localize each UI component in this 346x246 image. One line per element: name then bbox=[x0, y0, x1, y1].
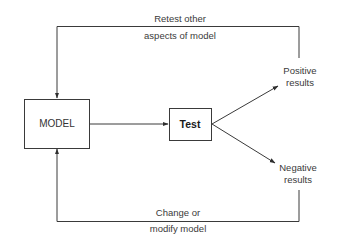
positive-results-label-line2: results bbox=[286, 77, 314, 89]
change-label-line1: Change or bbox=[156, 207, 200, 219]
diagram-canvas: MODEL Test Positive results Negative res… bbox=[0, 0, 346, 246]
retest-label-line1: Retest other bbox=[154, 13, 206, 25]
test-label: Test bbox=[180, 118, 201, 130]
change-label-line2: modify model bbox=[150, 223, 207, 235]
negative-results-label-line2: results bbox=[284, 174, 312, 186]
model-label: MODEL bbox=[39, 118, 75, 130]
negative-results-label-line1: Negative bbox=[279, 162, 317, 174]
edge-test-to-negative bbox=[212, 124, 275, 163]
retest-label-line2: aspects of model bbox=[144, 30, 216, 42]
positive-results-label-line1: Positive bbox=[283, 65, 316, 77]
edge-test-to-positive bbox=[212, 86, 278, 124]
